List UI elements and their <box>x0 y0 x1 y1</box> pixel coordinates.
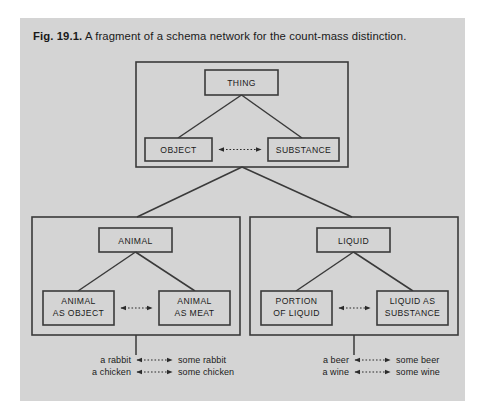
node-thing-label: THING <box>227 78 256 88</box>
example-left-1-mass: some chicken <box>178 367 234 377</box>
node-portion-of-liquid-label-line1: PORTION <box>276 296 318 306</box>
example-left-0-mass: some rabbit <box>178 355 227 365</box>
node-animal-as-object-label-line1: ANIMAL <box>61 296 95 306</box>
edge-thing-object <box>178 95 242 138</box>
node-animal-label: ANIMAL <box>118 236 152 246</box>
edge-top-to-liquid-group <box>242 167 352 217</box>
figure-root: Fig. 19.1. A fragment of a schema networ… <box>0 0 487 416</box>
edge-thing-substance <box>242 95 303 138</box>
example-right-0-mass: some beer <box>396 355 439 365</box>
edge-animal-to-animal-as-object <box>78 252 136 291</box>
edge-top-to-animal-group <box>137 167 242 217</box>
edge-animal-to-animal-as-meat <box>136 252 196 291</box>
node-animal-as-meat-label-line2: AS MEAT <box>175 308 215 318</box>
node-animal-as-object-label-line2: AS OBJECT <box>53 308 105 318</box>
node-portion-of-liquid-label-line2: OF LIQUID <box>273 308 320 318</box>
edge-liquid-to-liquid-as-substance <box>354 252 414 291</box>
node-liquid-label: LIQUID <box>338 236 369 246</box>
node-animal-as-meat-label-line1: ANIMAL <box>177 296 211 306</box>
edge-liquid-to-portion-of-liquid <box>296 252 354 291</box>
node-object-label: OBJECT <box>160 145 197 155</box>
node-substance-label: SUBSTANCE <box>276 145 332 155</box>
schema-network-diagram: THING OBJECT SUBSTANCE ANIMAL ANIMAL AS … <box>0 0 487 416</box>
node-liquid-as-substance-label-line1: LIQUID AS <box>390 296 436 306</box>
example-right-1-count: a wine <box>322 367 349 377</box>
node-liquid-as-substance-label-line2: SUBSTANCE <box>385 308 441 318</box>
example-right-1-mass: some wine <box>396 367 440 377</box>
example-left-0-count: a rabbit <box>100 355 131 365</box>
example-left-1-count: a chicken <box>92 367 131 377</box>
example-right-0-count: a beer <box>323 355 349 365</box>
